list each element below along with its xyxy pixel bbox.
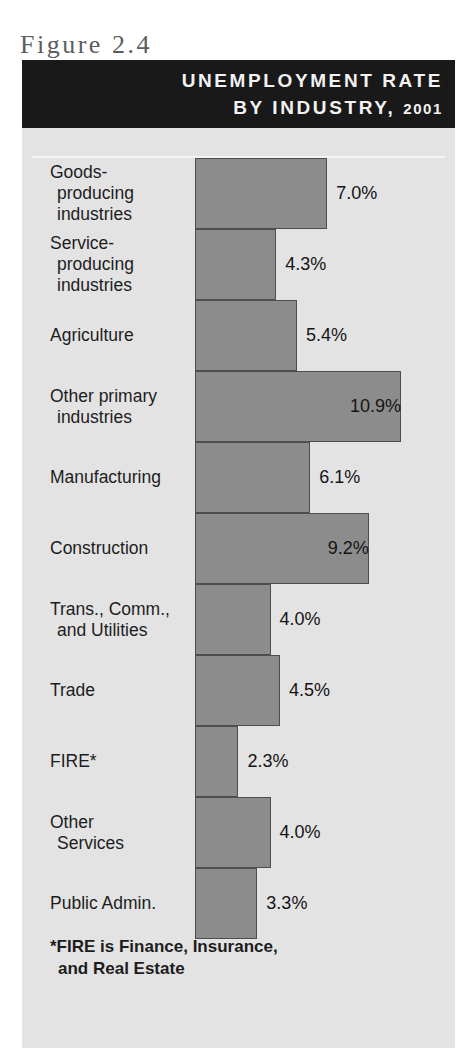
category-label: Goods-producingindustries [50, 158, 195, 229]
chart-title-year: 2001 [403, 100, 443, 117]
category-label-line: Goods- [50, 162, 195, 183]
category-label-line: producing [50, 183, 195, 204]
chart-bar-row: Public Admin.3.3% [22, 868, 455, 939]
category-label: Trans., Comm.,and Utilities [50, 584, 195, 655]
chart-bar-row: Trans., Comm.,and Utilities4.0% [22, 584, 455, 655]
bar [195, 868, 257, 939]
chart-bar-row: Manufacturing6.1% [22, 442, 455, 513]
category-label: Public Admin. [50, 868, 195, 939]
chart-title-banner: UNEMPLOYMENT RATE BY INDUSTRY, 2001 [22, 60, 455, 128]
category-label-line: Agriculture [50, 325, 195, 346]
bar-value-label: 4.5% [280, 655, 330, 726]
category-label: Other primaryindustries [50, 371, 195, 442]
category-label-line: Service- [50, 233, 195, 254]
category-label-line: and Utilities [50, 620, 195, 641]
bar [195, 300, 297, 371]
bar-value-label: 6.1% [310, 442, 360, 513]
figure-number-label: Figure 2.4 [20, 30, 152, 60]
chart-plot-area: Goods-producingindustries7.0%Service-pro… [22, 128, 455, 1048]
chart-title-subject: BY INDUSTRY, [233, 97, 395, 118]
category-label: Trade [50, 655, 195, 726]
chart-bar-row: FIRE*2.3% [22, 726, 455, 797]
category-label: Service-producingindustries [50, 229, 195, 300]
category-label-line: Trans., Comm., [50, 599, 195, 620]
bar-value-label: 10.9% [195, 371, 411, 442]
category-label: Agriculture [50, 300, 195, 371]
category-label-line: producing [50, 254, 195, 275]
chart-bar-row: Service-producingindustries4.3% [22, 229, 455, 300]
category-label: OtherServices [50, 797, 195, 868]
category-label-line: industries [50, 407, 195, 428]
bar-value-label: 4.0% [271, 797, 321, 868]
category-label-line: Public Admin. [50, 893, 195, 914]
bar [195, 655, 280, 726]
figure-panel: UNEMPLOYMENT RATE BY INDUSTRY, 2001 Good… [22, 60, 455, 1048]
chart-title-line-2: BY INDUSTRY, 2001 [22, 94, 443, 122]
bar [195, 229, 276, 300]
category-label-line: industries [50, 204, 195, 225]
chart-bar-row: Goods-producingindustries7.0% [22, 158, 455, 229]
category-label-line: Trade [50, 680, 195, 701]
chart-footnote: *FIRE is Finance, Insurance, and Real Es… [50, 936, 430, 980]
bar-value-label: 4.0% [271, 584, 321, 655]
category-label-line: Services [50, 833, 195, 854]
chart-bar-row: OtherServices4.0% [22, 797, 455, 868]
chart-bar-row: Other primaryindustries10.9% [22, 371, 455, 442]
page-top-bleed-text [0, 0, 474, 22]
chart-bar-row: Construction9.2% [22, 513, 455, 584]
category-label-line: Manufacturing [50, 467, 195, 488]
category-label-line: Other primary [50, 386, 195, 407]
category-label-line: FIRE* [50, 751, 195, 772]
bar-value-label: 2.3% [238, 726, 288, 797]
category-label: Manufacturing [50, 442, 195, 513]
bar [195, 797, 271, 868]
category-label: FIRE* [50, 726, 195, 797]
bar-value-label: 4.3% [276, 229, 326, 300]
bar-value-label: 3.3% [257, 868, 307, 939]
category-label: Construction [50, 513, 195, 584]
category-label-line: Other [50, 812, 195, 833]
footnote-line-2: and Real Estate [50, 958, 430, 980]
bar [195, 584, 271, 655]
bar-value-label: 5.4% [297, 300, 347, 371]
category-label-line: industries [50, 275, 195, 296]
category-label-line: Construction [50, 538, 195, 559]
bar [195, 442, 310, 513]
chart-bar-row: Agriculture5.4% [22, 300, 455, 371]
chart-bar-row: Trade4.5% [22, 655, 455, 726]
chart-title-line-1: UNEMPLOYMENT RATE [22, 67, 443, 94]
bar [195, 158, 327, 229]
bar-value-label: 9.2% [195, 513, 379, 584]
bar-value-label: 7.0% [327, 158, 377, 229]
footnote-line-1: *FIRE is Finance, Insurance, [50, 936, 430, 958]
bar [195, 726, 238, 797]
